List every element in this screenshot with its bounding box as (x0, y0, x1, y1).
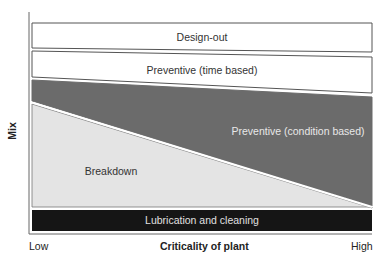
label-preventive-condition: Preventive (condition based) (231, 126, 364, 137)
label-lubrication: Lubrication and cleaning (145, 215, 259, 226)
y-axis-label: Mix (6, 122, 18, 140)
label-preventive-time: Preventive (time based) (147, 65, 258, 76)
maintenance-mix-diagram: Design-out Preventive (time based) Preve… (0, 0, 384, 266)
label-design-out: Design-out (177, 32, 228, 43)
x-axis-high-label: High (351, 241, 373, 252)
label-breakdown: Breakdown (85, 166, 138, 177)
x-axis-low-label: Low (29, 241, 48, 252)
x-axis-label: Criticality of plant (160, 241, 249, 252)
